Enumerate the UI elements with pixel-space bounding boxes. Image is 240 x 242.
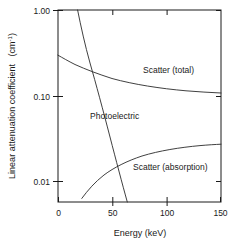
x-axis-title: Energy (keV) xyxy=(114,228,167,238)
y-axis-title-main: Linear attenuation coefficient xyxy=(7,63,17,178)
x-tick-label-1: 0 xyxy=(56,208,61,218)
x-tick-label-3: 100 xyxy=(160,208,174,218)
x-tick-label-4: 150 xyxy=(213,208,227,218)
y-axis-title: Linear attenuation coefficient (cm-1) xyxy=(7,33,18,179)
y-tick-label-2: 0.10 xyxy=(33,92,50,102)
y-tick-label-1: 1.00 xyxy=(33,6,50,16)
x-tick-label-2: 50 xyxy=(108,208,118,218)
plot-frame xyxy=(58,10,221,202)
y-axis-title-group: Linear attenuation coefficient (cm-1) xyxy=(7,33,18,179)
y-axis-title-units-end: ) xyxy=(7,33,17,36)
y-axis-ticks-right xyxy=(216,11,221,182)
annotation-scatter-absorption: Scatter (absorption) xyxy=(133,162,208,172)
y-axis-title-units: (cm xyxy=(7,41,17,56)
curve-scatter-total xyxy=(58,55,221,93)
chart-figure: 1.00 0.10 0.01 0 50 100 150 Energy (keV)… xyxy=(0,0,240,242)
x-axis-ticks-top xyxy=(113,10,167,15)
curve-photoelectric xyxy=(78,10,128,202)
chart-plot-area: 1.00 0.10 0.01 0 50 100 150 Energy (keV)… xyxy=(0,0,240,242)
annotation-scatter-total: Scatter (total) xyxy=(143,65,194,75)
y-tick-label-3: 0.01 xyxy=(33,177,50,187)
annotation-photoelectric: Photoelectric xyxy=(90,111,140,121)
